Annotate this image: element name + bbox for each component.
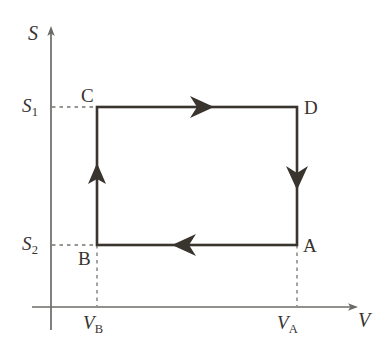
point-label-b: B: [78, 249, 91, 268]
y-tick-label-s1: S1: [22, 96, 38, 115]
cycle-path-group: [88, 96, 308, 256]
y-tick-s2-main: S: [22, 233, 32, 254]
guide-lines-group: [52, 107, 297, 306]
y-tick-label-s2: S2: [22, 234, 38, 253]
x-tick-label-va: VA: [277, 313, 298, 332]
x-tick-vb-main: V: [83, 312, 95, 333]
y-tick-s1-main: S: [22, 95, 32, 116]
cycle-rectangle: [97, 107, 297, 245]
point-label-d: D: [304, 98, 318, 117]
y-axis-label: S: [28, 23, 38, 43]
x-axis-label: V: [358, 310, 370, 330]
x-tick-label-vb: VB: [83, 313, 103, 332]
y-tick-s2-sub: 2: [32, 243, 38, 257]
x-tick-va-sub: A: [289, 322, 298, 336]
entropy-volume-cycle-figure: S V S1 S2 VB VA A B C D: [0, 0, 380, 346]
point-label-a: A: [303, 236, 317, 255]
point-label-c: C: [81, 86, 94, 105]
x-tick-va-main: V: [277, 312, 289, 333]
y-tick-s1-sub: 1: [32, 105, 38, 119]
cycle-diagram-canvas: [0, 0, 380, 346]
axes-group: [32, 26, 358, 330]
x-tick-vb-sub: B: [95, 322, 103, 336]
